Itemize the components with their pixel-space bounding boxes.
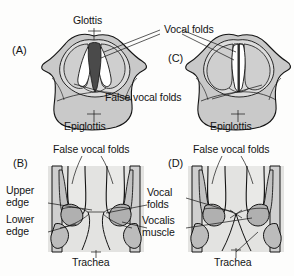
panel-id-a: (A) (12, 44, 27, 56)
label-upper-edge-line1: Upper (6, 184, 34, 196)
label-vocalis-muscle-line2: muscle (142, 226, 175, 238)
label-trachea-d: Trachea (214, 257, 251, 269)
label-vocal-folds-top: Vocal folds (164, 24, 214, 36)
panel-d-artwork (188, 166, 284, 252)
panel-b-artwork (48, 166, 144, 252)
label-false-vocal-folds-b: False vocal folds (53, 144, 130, 156)
label-epiglottis-c: Epiglottis (210, 121, 252, 133)
panel-id-c: (C) (168, 52, 183, 64)
label-vocal-folds-d-line2: folds (147, 198, 169, 210)
panel-id-b: (B) (13, 157, 28, 169)
anatomy-figure: .s{stroke:#141414;fill:none;stroke-width… (0, 0, 294, 276)
label-lower-edge-line1: Lower (6, 213, 34, 225)
label-vocalis-muscle-line1: Vocalis (142, 214, 175, 226)
label-lower-edge-line2: edge (6, 225, 29, 237)
panel-id-d: (D) (168, 157, 183, 169)
label-trachea-b: Trachea (72, 257, 109, 269)
label-upper-edge-line2: edge (6, 196, 29, 208)
label-epiglottis-a: Epiglottis (64, 121, 106, 133)
panel-c-glottis-slit (239, 44, 240, 92)
label-glottis: Glottis (73, 15, 102, 27)
label-false-vocal-folds-top: False vocal folds (105, 92, 182, 104)
label-false-vocal-folds-d: False vocal folds (193, 144, 270, 156)
label-vocal-folds-d-line1: Vocal (147, 186, 172, 198)
